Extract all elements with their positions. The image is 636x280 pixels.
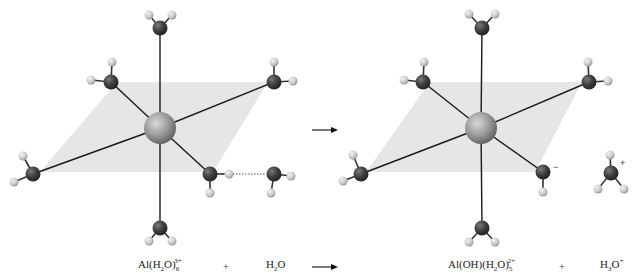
hydronium-charge: + <box>620 158 625 168</box>
reaction-arrow-equation <box>312 264 338 270</box>
reactant-complex <box>10 11 298 246</box>
hydronium-oxygen <box>604 166 619 181</box>
product2-formula: H3O+ <box>600 259 623 270</box>
product-complex: − + <box>339 10 629 247</box>
reaction-arrow-diagram <box>312 127 338 133</box>
reaction-diagram: − + <box>0 0 636 280</box>
hydroxide-oxygen <box>536 165 551 180</box>
free-water-oxygen <box>267 167 282 182</box>
hydroxide-charge: − <box>553 162 558 172</box>
aluminum-atom <box>465 112 497 144</box>
reactant2-formula: H2O <box>266 259 285 270</box>
plus-sign-2: + <box>559 261 565 272</box>
reactant1-formula: Al(H2O)63+ <box>138 259 182 270</box>
plus-sign-1: + <box>223 261 229 272</box>
aluminum-atom <box>144 112 176 144</box>
product1-formula: Al(OH)(H2O)52+ <box>448 259 515 270</box>
